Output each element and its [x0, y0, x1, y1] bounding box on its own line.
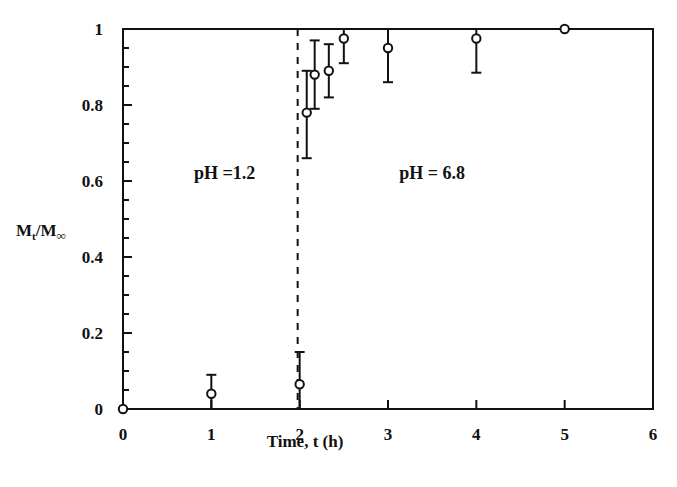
y-tick-label: 0.8: [82, 96, 103, 115]
open-circle-marker: [310, 70, 318, 78]
y-axis-title-main: M: [16, 221, 32, 240]
x-tick-label: 5: [560, 425, 569, 444]
y-axis-title: Mt/M∞: [16, 221, 66, 243]
plot-axes: [123, 29, 653, 409]
x-tick-label: 1: [207, 425, 216, 444]
open-circle-marker: [340, 34, 348, 42]
x-tick-label: 3: [384, 425, 393, 444]
y-tick-label: 1: [95, 20, 104, 39]
ph-label: pH =1.2: [194, 163, 255, 183]
y-tick-label: 0: [95, 400, 104, 419]
x-tick-label: 6: [649, 425, 658, 444]
x-tick-label: 4: [472, 425, 481, 444]
plot-frame: [123, 29, 653, 409]
y-tick-label: 0.6: [82, 172, 103, 191]
open-circle-marker: [119, 405, 127, 413]
data-points: [119, 25, 569, 413]
ph-annotations: pH =1.2pH = 6.8: [194, 163, 465, 183]
error-bars: [206, 29, 481, 409]
open-circle-marker: [560, 25, 568, 33]
y-tick-label: 0.4: [82, 248, 104, 267]
y-axis-ticks: 00.20.40.60.81: [82, 20, 132, 419]
ph-label: pH = 6.8: [399, 163, 465, 183]
open-circle-marker: [303, 108, 311, 116]
open-circle-marker: [325, 67, 333, 75]
y-tick-label: 0.2: [82, 324, 103, 343]
y-axis-title-sub2: ∞: [57, 228, 66, 243]
x-axis-title: Time, t (h): [267, 432, 344, 451]
open-circle-marker: [207, 390, 215, 398]
open-circle-marker: [384, 44, 392, 52]
release-chart: 00.20.40.60.81 0123456 pH =1.2pH = 6.8 T…: [0, 0, 677, 487]
x-tick-label: 0: [119, 425, 128, 444]
open-circle-marker: [472, 34, 480, 42]
y-axis-title-slash: /M: [35, 221, 57, 240]
x-axis-ticks: 0123456: [119, 400, 658, 444]
open-circle-marker: [295, 380, 303, 388]
